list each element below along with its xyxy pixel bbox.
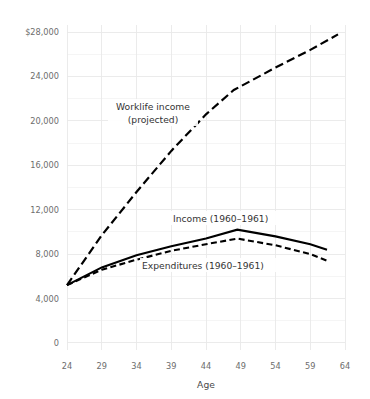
line-chart: $28,000 24,000 20,000 16,000 12,000 8,00… <box>0 0 370 399</box>
annotation-worklife-income: Worklife income (projected) <box>108 99 198 126</box>
annotation-expenditures: Expenditures (1960–1961) <box>140 258 292 272</box>
chart-container: $28,000 24,000 20,000 16,000 12,000 8,00… <box>0 0 370 399</box>
y-tick-12000: 12,000 <box>30 205 59 215</box>
x-tick-34: 34 <box>131 361 141 371</box>
x-tick-39: 39 <box>166 361 176 371</box>
y-tick-16000: 16,000 <box>30 160 59 170</box>
x-tick-59: 59 <box>305 361 315 371</box>
y-tick-0: 0 <box>54 338 59 348</box>
annotation-worklife-line2: (projected) <box>128 114 179 125</box>
annotation-expenditures-label: Expenditures (1960–1961) <box>142 260 264 271</box>
x-tick-44: 44 <box>201 361 211 371</box>
x-tick-54: 54 <box>270 361 280 371</box>
y-tick-28000: $28,000 <box>25 27 59 37</box>
x-tick-29: 29 <box>97 361 107 371</box>
annotation-income-label: Income (1960–1961) <box>173 213 268 224</box>
annotation-worklife-line1: Worklife income <box>116 101 190 112</box>
y-tick-8000: 8,000 <box>36 249 59 259</box>
x-tick-49: 49 <box>236 361 246 371</box>
x-axis-title: Age <box>197 379 215 390</box>
y-tick-20000: 20,000 <box>30 116 59 126</box>
y-tick-4000: 4,000 <box>36 294 59 304</box>
y-tick-24000: 24,000 <box>30 71 59 81</box>
x-tick-64: 64 <box>340 361 350 371</box>
x-axis-tick-labels: 24 29 34 39 44 49 54 59 64 <box>62 361 350 371</box>
x-tick-24: 24 <box>62 361 72 371</box>
annotation-income: Income (1960–1961) <box>171 211 291 225</box>
